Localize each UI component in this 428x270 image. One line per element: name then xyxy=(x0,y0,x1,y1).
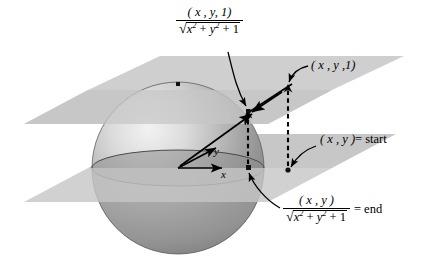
stereographic-projection-figure: ( x , y, 1) √x2 + y2 + 1 ( x , y ,1) ( x… xyxy=(0,0,428,270)
end-point-marker xyxy=(246,165,251,170)
label-start: ( x , y )= start xyxy=(320,133,387,146)
top-fraction-radicand: x2 + y2 + 1 xyxy=(186,22,240,36)
start-point-marker xyxy=(285,167,290,172)
top-fraction-numerator: ( x , y, 1) xyxy=(176,6,243,21)
north-pole-dot xyxy=(176,82,180,86)
label-point-xy1: ( x , y ,1) xyxy=(311,59,355,72)
end-fraction: ( x , y ) √x2 + y2 + 1 xyxy=(283,194,350,225)
sphere-point-marker xyxy=(246,109,251,114)
radical-end: √x2 + y2 + 1 xyxy=(286,210,347,224)
start-equals-text: = start xyxy=(355,132,387,146)
top-fraction: ( x , y, 1) √x2 + y2 + 1 xyxy=(176,6,243,37)
end-fraction-radicand: x2 + y2 + 1 xyxy=(293,210,347,224)
upper-plane-over-sphere xyxy=(24,90,332,124)
axis-x-label: x xyxy=(221,168,226,180)
radical-top: √x2 + y2 + 1 xyxy=(179,22,240,36)
upper-plane-back-half xyxy=(88,56,404,90)
axis-y-label: y xyxy=(214,145,219,157)
end-equals-text: = end xyxy=(350,203,382,216)
start-point-text: ( x , y ) xyxy=(320,132,355,146)
end-fraction-denominator: √x2 + y2 + 1 xyxy=(283,209,350,224)
top-fraction-denominator: √x2 + y2 + 1 xyxy=(176,21,243,36)
label-top-fraction: ( x , y, 1) √x2 + y2 + 1 xyxy=(176,6,243,37)
upper-plane-overlay xyxy=(24,90,332,124)
end-fraction-numerator: ( x , y ) xyxy=(283,194,350,209)
label-end-fraction: ( x , y ) √x2 + y2 + 1 = end xyxy=(283,194,382,225)
